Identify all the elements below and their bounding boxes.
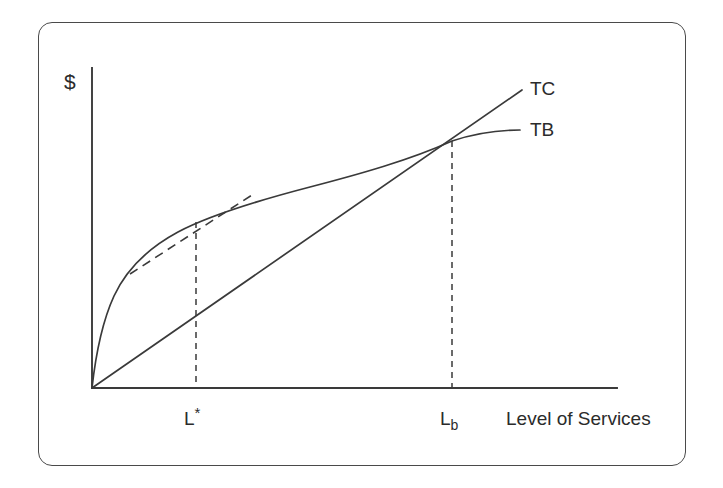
- total-cost-line: [92, 90, 522, 388]
- annotation-group: [130, 141, 452, 388]
- total-benefit-curve: [92, 130, 520, 388]
- total-benefit-label: TB: [530, 119, 554, 141]
- series-group: [92, 90, 522, 388]
- x-axis-title: Level of Services: [506, 408, 651, 430]
- optimal-level-label: L*: [184, 408, 200, 430]
- total-cost-label: TC: [530, 78, 555, 100]
- breakeven-level-label: Lb: [440, 408, 458, 430]
- y-axis-label: $: [64, 70, 76, 94]
- optimal-level-asterisk: *: [195, 404, 201, 421]
- breakeven-level-base: L: [440, 408, 451, 429]
- breakeven-level-subscript: b: [451, 417, 459, 433]
- figure-root: $ TC TB L* Lb Level of Services: [0, 0, 723, 488]
- tangent-line: [130, 195, 252, 274]
- optimal-level-base: L: [184, 408, 195, 429]
- axes-group: [92, 68, 617, 388]
